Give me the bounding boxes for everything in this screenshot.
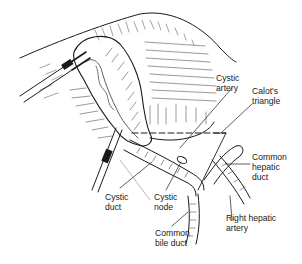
- label-common-hepatic-duct: Common hepatic duct: [252, 152, 287, 182]
- cystic-duct: [124, 140, 204, 196]
- label-cystic-duct: Cystic duct: [105, 192, 128, 212]
- gallbladder-hatching: [70, 48, 140, 138]
- leader-calots-triangle: [222, 104, 252, 132]
- label-common-bile-duct: Common bile duct: [155, 228, 190, 248]
- gallbladder-wrinkle: [96, 66, 114, 110]
- label-calots-triangle: Calot's triangle: [252, 86, 280, 106]
- label-right-hepatic-artery: Right hepatic artery: [226, 213, 276, 233]
- lower-grasper-instrument: [92, 128, 122, 192]
- common-hepatic-duct: [204, 146, 243, 184]
- cystic-artery: [150, 122, 214, 140]
- cystic-node: [176, 155, 188, 165]
- laparoscopic-cholecystectomy-illustration: Cystic artery Calot's triangle Common he…: [0, 0, 302, 264]
- leader-cystic-node: [166, 164, 180, 190]
- leader-common-bile-duct: [172, 212, 188, 226]
- peritoneum-hatching: [145, 42, 216, 101]
- leader-cystic-artery: [180, 88, 232, 148]
- liver-hatching: [40, 20, 194, 98]
- upper-grasper-instrument: [20, 52, 90, 102]
- label-cystic-node: Cystic node: [154, 192, 177, 212]
- label-cystic-artery: Cystic artery: [216, 73, 239, 93]
